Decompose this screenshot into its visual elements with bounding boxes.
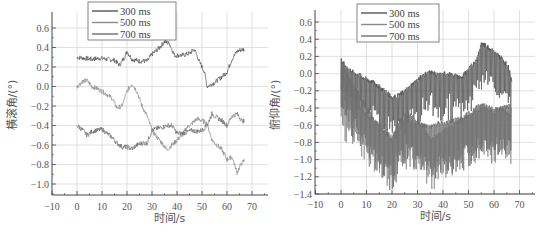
x-tick-label: 0 — [75, 201, 80, 212]
x-tick-label: 30 — [147, 201, 157, 212]
legend-label: 700 ms — [389, 31, 420, 42]
y-tick-label: 0.0 — [37, 81, 50, 92]
x-tick-label: 20 — [122, 201, 132, 212]
y-tick-label: 0.4 — [37, 42, 50, 53]
x-tick-label: 30 — [413, 199, 423, 210]
y-tick-label: 0.2 — [37, 62, 50, 73]
y-tick-label: 0.0 — [300, 68, 313, 79]
x-tick-label: 0 — [339, 199, 344, 210]
pitch-angle-chart: −100102030405060700.60.40.20.0−0.2−0.4−0… — [268, 4, 535, 223]
chart-canvas: −100102030405060700.60.40.20.0−0.2−0.4−0… — [0, 0, 543, 233]
x-tick-label: 40 — [438, 199, 448, 210]
x-tick-label: 10 — [97, 201, 107, 212]
y-tick-label: −0.4 — [294, 103, 312, 114]
x-tick-label: −10 — [44, 201, 60, 212]
legend-label: 300 ms — [389, 8, 420, 19]
y-tick-label: 0.4 — [300, 34, 313, 45]
y-tick-label: −0.6 — [31, 140, 49, 151]
legend-label: 700 ms — [120, 29, 151, 40]
legend: 300 ms500 ms700 ms — [357, 4, 439, 42]
x-axis-title: 时间/s — [154, 212, 186, 225]
x-tick-label: 40 — [172, 201, 182, 212]
legend-label: 500 ms — [120, 17, 151, 28]
roll-angle-chart: −100102030405060700.60.40.20.0−0.2−0.4−0… — [5, 2, 268, 225]
y-tick-label: −1.0 — [294, 154, 312, 165]
x-tick-label: 20 — [387, 199, 397, 210]
x-tick-label: 60 — [222, 201, 232, 212]
y-tick-label: −1.0 — [31, 179, 49, 190]
x-axis-title: 时间/s — [420, 210, 452, 223]
y-tick-label: −0.8 — [31, 159, 49, 170]
y-tick-label: 0.2 — [300, 51, 313, 62]
legend-label: 300 ms — [120, 6, 151, 17]
legend-label: 500 ms — [389, 19, 420, 30]
y-tick-label: 0.6 — [300, 17, 313, 28]
x-tick-label: 50 — [197, 201, 207, 212]
y-tick-label: −1.4 — [294, 189, 312, 200]
y-tick-label: −0.8 — [294, 137, 312, 148]
y-axis-title: 横滚角/(°) — [5, 80, 19, 131]
y-tick-label: −0.6 — [294, 120, 312, 131]
y-tick-label: −0.2 — [294, 85, 312, 96]
x-tick-label: 50 — [464, 199, 474, 210]
x-tick-label: −10 — [308, 199, 324, 210]
x-tick-label: 70 — [515, 199, 525, 210]
y-tick-label: −0.4 — [31, 120, 49, 131]
y-tick-label: −0.2 — [31, 101, 49, 112]
y-tick-label: −1.2 — [294, 171, 312, 182]
x-tick-label: 10 — [362, 199, 372, 210]
legend: 300 ms500 ms700 ms — [88, 2, 176, 40]
x-tick-label: 60 — [489, 199, 499, 210]
y-tick-label: 0.6 — [37, 23, 50, 34]
y-axis-title: 俯仰角/(°) — [268, 80, 282, 131]
x-tick-label: 70 — [247, 201, 257, 212]
